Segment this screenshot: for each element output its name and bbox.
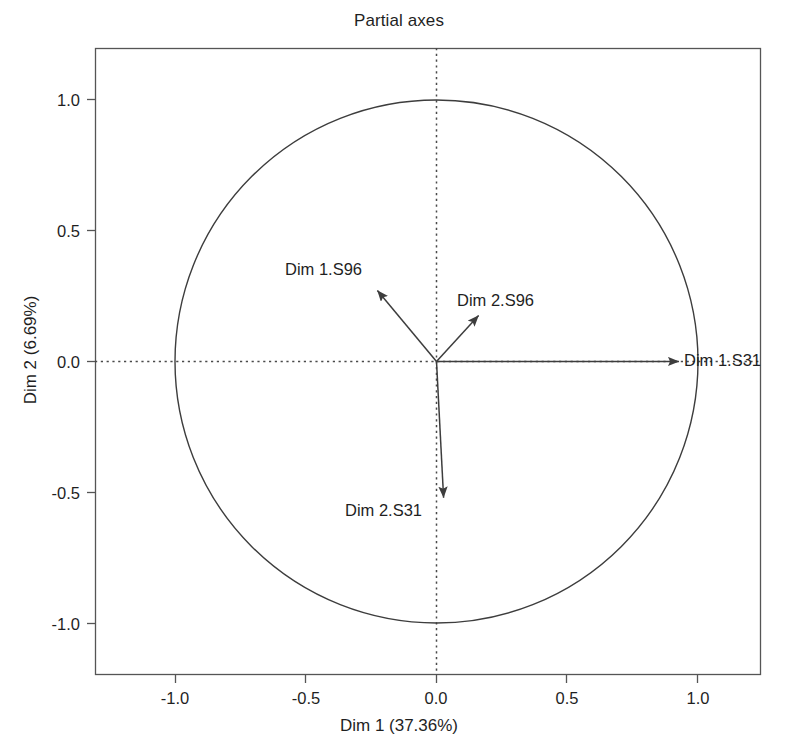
y-tick-label: 0.5 [20,222,80,241]
vector-label-dim1-s31: Dim 1.S31 [684,351,761,370]
x-tick-label: -1.0 [161,689,189,708]
vector-dim1-s96 [377,290,436,361]
x-tick-label: 1.0 [687,689,710,708]
x-tick-label: 0.0 [425,689,448,708]
x-tick-label: 0.5 [556,689,579,708]
x-tick-label: -0.5 [292,689,320,708]
y-tick-label: -0.5 [20,484,80,503]
partial-axes-chart: Partial axes [0,0,798,751]
x-axis-ticks [176,675,698,683]
y-tick-label: -1.0 [20,615,80,634]
vector-dim2-s31 [437,362,444,498]
vector-label-dim2-s31: Dim 2.S31 [345,501,422,520]
x-axis-label: Dim 1 (37.36%) [0,716,798,736]
y-tick-label: 1.0 [20,91,80,110]
plot-canvas [0,0,798,751]
y-axis-ticks [87,100,95,624]
vector-label-dim1-s96: Dim 1.S96 [285,260,362,279]
vector-label-dim2-s96: Dim 2.S96 [457,291,534,310]
vector-dim2-s96 [437,316,479,362]
y-axis-label: Dim 2 (6.69%) [21,250,41,450]
